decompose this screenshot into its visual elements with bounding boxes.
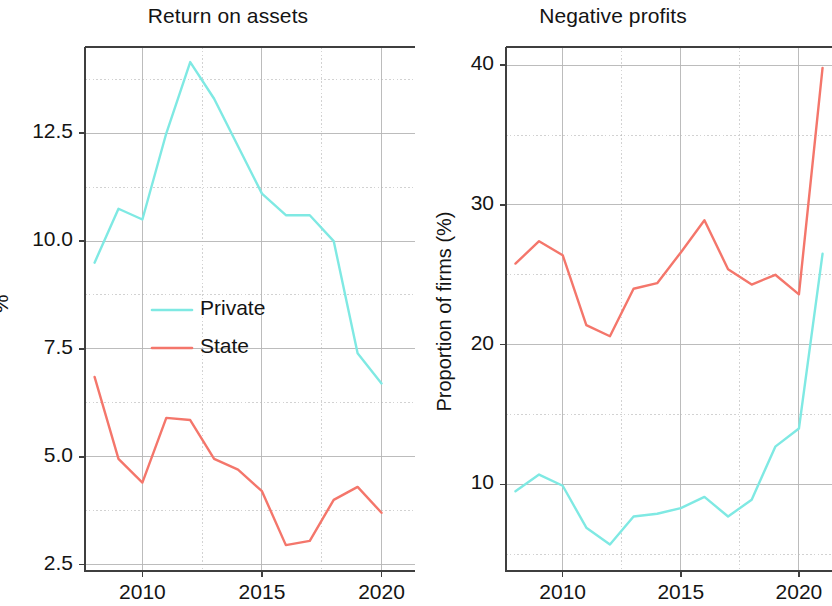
x-tick-label: 2010 [518, 580, 608, 604]
x-tick-label: 2015 [217, 580, 307, 604]
y-tick-label: 12.5 [0, 119, 73, 143]
y-tick-label: 20 [416, 331, 494, 355]
y-tick-label: 10 [416, 470, 494, 494]
series-line-state [515, 68, 822, 336]
y-tick-label: 40 [416, 51, 494, 75]
y-tick-label: 5.0 [0, 443, 73, 467]
series-line-private [515, 254, 822, 545]
figure-two-panel-line-charts: Return on assets % 2.55.07.510.012.52010… [0, 0, 832, 606]
x-tick-label: 2020 [337, 580, 427, 604]
panel-right-plot [416, 0, 832, 606]
series-line-state [95, 377, 382, 545]
axes-frame [506, 47, 832, 571]
y-tick-label: 10.0 [0, 227, 73, 251]
x-tick-label: 2010 [97, 580, 187, 604]
y-tick-label: 30 [416, 191, 494, 215]
y-tick-label: 2.5 [0, 551, 73, 575]
x-tick-label: 2020 [754, 580, 832, 604]
panel-return-on-assets: Return on assets % 2.55.07.510.012.52010… [0, 0, 416, 606]
x-tick-label: 2015 [636, 580, 726, 604]
panel-negative-profits: Negative profits Proportion of firms (%)… [416, 0, 832, 606]
legend-label-private: Private [200, 296, 265, 320]
y-tick-label: 7.5 [0, 335, 73, 359]
legend-label-state: State [200, 334, 249, 358]
